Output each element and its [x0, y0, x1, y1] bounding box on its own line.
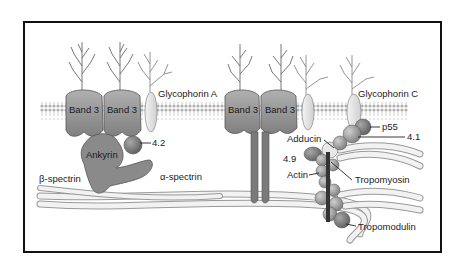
- band3-label-2: Band 3: [107, 104, 137, 115]
- rbc-membrane-diagram: Band 3 Band 3 Ankyrin 4.2 β-spectrin α-s…: [0, 0, 463, 263]
- glycophorin-middle-shape: [302, 94, 314, 130]
- adducin-label: Adducin: [287, 133, 321, 144]
- tropomyosin-label: Tropomyosin: [355, 174, 410, 185]
- band3-label-3: Band 3: [228, 104, 258, 115]
- protein-4-2-label: 4.2: [152, 137, 165, 148]
- glycophorin-a-label: Glycophorin A: [158, 88, 218, 99]
- band3-label-1: Band 3: [69, 104, 99, 115]
- glycophorin-a-shape: [145, 92, 157, 132]
- ankyrin-label: Ankyrin: [86, 149, 118, 160]
- actin-label: Actin: [287, 169, 308, 180]
- glycophorin-c-label: Glycophorin C: [358, 88, 418, 99]
- band3-label-4: Band 3: [265, 104, 295, 115]
- beta-spectrin-label: β-spectrin: [39, 173, 81, 184]
- alpha-spectrin-label: α-spectrin: [160, 171, 202, 182]
- protein-4-2-shape: [124, 136, 142, 154]
- protein-4-1-label: 4.1: [407, 131, 420, 142]
- tropomodulin-label: Tropomodulin: [358, 221, 416, 232]
- protein-4-9-label: 4.9: [283, 153, 296, 164]
- p55-label: p55: [382, 121, 398, 132]
